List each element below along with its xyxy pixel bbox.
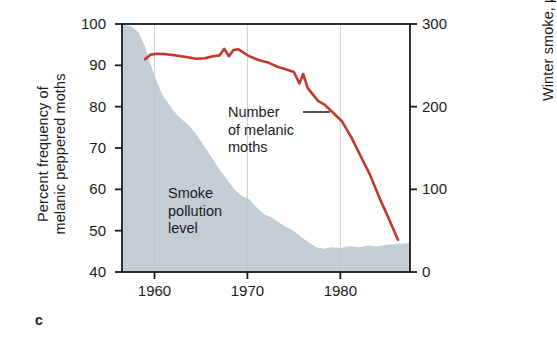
y-tick-label-left-70: 70 [44,139,106,156]
y-tick-label-right-300: 300 [422,15,447,32]
y-axis-right-title: Winter smoke, µg/m³ [540,0,557,148]
moths-annotation-line3: moths [228,139,294,157]
y-tick-label-left-40: 40 [44,263,106,280]
y-tick-label-right-100: 100 [422,180,447,197]
smoke-annotation-line1: Smoke [168,185,222,203]
y-tick-label-left-80: 80 [44,98,106,115]
x-axis-ticks [155,272,341,279]
smoke-pollution-annotation: Smoke pollution level [168,185,222,238]
melanic-moths-annotation: Number of melanic moths [228,104,294,157]
x-tick-label-1960: 1960 [125,282,185,299]
x-tick-label-1980: 1980 [310,282,370,299]
panel-label: c [35,312,43,328]
y-tick-label-right-0: 0 [422,263,430,280]
smoke-annotation-line3: level [168,220,222,238]
x-tick-label-1970: 1970 [217,282,277,299]
y-tick-label-left-100: 100 [44,15,106,32]
y-tick-label-left-50: 50 [44,222,106,239]
y-tick-label-right-200: 200 [422,98,447,115]
y-tick-label-left-90: 90 [44,56,106,73]
y-tick-label-left-60: 60 [44,180,106,197]
y-axis-left-ticks [115,24,122,272]
moths-annotation-line2: of melanic [228,122,294,140]
y-axis-right-ticks [410,24,417,272]
smoke-annotation-line2: pollution [168,203,222,221]
moths-annotation-line1: Number [228,104,294,122]
